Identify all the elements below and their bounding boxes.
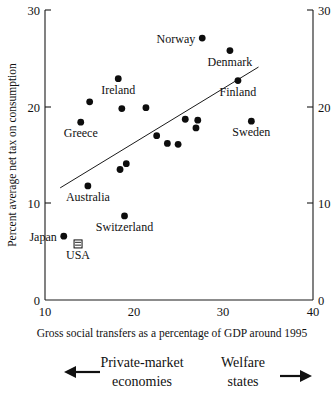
data-point-greece bbox=[77, 119, 84, 126]
scatter-plot-figure: 30 20 10 0 30 20 10 0 10 20 30 40 Percen… bbox=[0, 0, 334, 394]
data-point-finland bbox=[235, 77, 242, 84]
left-caption-line1: Private-market bbox=[100, 355, 183, 370]
data-point-4 bbox=[86, 98, 93, 105]
x-axis-title: Gross social transfers as a percentage o… bbox=[37, 327, 308, 340]
y-axis-title: Percent average net tax on consumption bbox=[6, 63, 19, 247]
data-point-11 bbox=[193, 125, 200, 132]
left-arrow-icon-head bbox=[64, 366, 76, 378]
right-arrow-icon-head bbox=[300, 370, 312, 382]
data-point-ireland bbox=[115, 75, 122, 82]
y-tick-label-right-10: 10 bbox=[318, 197, 331, 211]
data-point-5 bbox=[118, 105, 125, 112]
point-label-norway: Norway bbox=[157, 32, 196, 46]
y-tick-label-right-20: 20 bbox=[318, 101, 331, 115]
data-point-sweden bbox=[248, 118, 255, 125]
y-axis-left-ticks bbox=[45, 10, 51, 203]
point-label-australia: Australia bbox=[66, 190, 111, 204]
data-point-16 bbox=[117, 166, 124, 173]
data-point-denmark bbox=[227, 47, 234, 54]
y-axis-right-ticks bbox=[307, 10, 313, 203]
x-tick-label-30: 30 bbox=[217, 305, 230, 319]
y-tick-label-left-20: 20 bbox=[28, 101, 41, 115]
data-point-12 bbox=[153, 132, 160, 139]
point-label-japan: Japan bbox=[29, 230, 56, 244]
point-label-usa: USA bbox=[66, 248, 90, 262]
data-point-usa-marker bbox=[74, 240, 82, 248]
point-label-denmark: Denmark bbox=[208, 55, 253, 69]
data-point-14 bbox=[175, 141, 182, 148]
data-point-13 bbox=[164, 140, 171, 147]
right-caption-line2: states bbox=[227, 374, 258, 389]
point-label-switzerland: Switzerland bbox=[96, 220, 153, 234]
point-labels-group: NorwayDenmarkIrelandFinlandGreeceSwedenA… bbox=[29, 32, 270, 262]
point-label-finland: Finland bbox=[220, 85, 257, 99]
y-tick-label-left-10: 10 bbox=[28, 197, 41, 211]
usa-marker-box bbox=[74, 240, 82, 248]
data-point-6 bbox=[143, 104, 150, 111]
data-point-switzerland bbox=[121, 213, 128, 220]
y-tick-label-right-30: 30 bbox=[318, 4, 331, 18]
left-caption-line2: economies bbox=[112, 374, 172, 389]
data-point-15 bbox=[123, 160, 130, 167]
right-caption-line1: Welfare bbox=[221, 355, 265, 370]
data-point-australia bbox=[84, 183, 91, 190]
data-point-norway bbox=[199, 35, 206, 42]
x-tick-label-10: 10 bbox=[39, 305, 52, 319]
x-tick-label-40: 40 bbox=[307, 305, 320, 319]
y-tick-label-left-30: 30 bbox=[28, 4, 41, 18]
plot-canvas: 30 20 10 0 30 20 10 0 10 20 30 40 Percen… bbox=[0, 0, 334, 394]
data-point-8 bbox=[182, 116, 189, 123]
data-point-japan bbox=[60, 233, 67, 240]
point-label-sweden: Sweden bbox=[232, 125, 270, 139]
annotation-group: Private-market economies Welfare states bbox=[64, 355, 312, 389]
point-label-greece: Greece bbox=[64, 126, 98, 140]
data-point-9 bbox=[194, 117, 201, 124]
x-tick-label-20: 20 bbox=[128, 305, 141, 319]
point-label-ireland: Ireland bbox=[101, 83, 135, 97]
